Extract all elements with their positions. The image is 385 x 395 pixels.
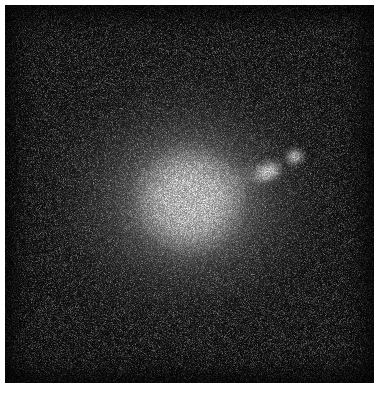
jet-bridge-layer [5, 5, 374, 383]
caption-area [0, 383, 385, 395]
outer-knot [278, 141, 312, 172]
plate-vignette [5, 5, 374, 383]
outer-envelope-layer [5, 5, 374, 383]
detector-noise-dark-layer [5, 5, 374, 383]
faint-point-source [118, 367, 126, 374]
galaxy-halo-layer [5, 5, 374, 383]
galaxy-nucleus-layer [5, 5, 374, 383]
detector-noise-layer [5, 5, 374, 383]
observation-plate [5, 5, 374, 383]
image-viewport [0, 0, 385, 395]
inner-knot [240, 149, 294, 194]
